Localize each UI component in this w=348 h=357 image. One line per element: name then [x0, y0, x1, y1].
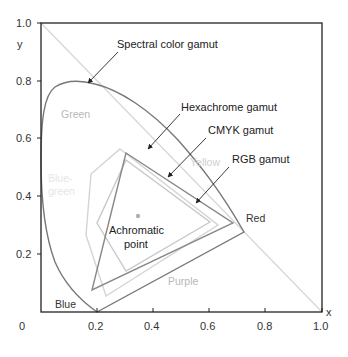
hexachrome-gamut-label: Hexachrome gamut: [181, 101, 277, 113]
achromatic-point-label: Achromatic: [109, 224, 165, 236]
x-axis-label: x: [326, 306, 332, 318]
spectral-arrow: [88, 52, 118, 83]
origin-label: 0: [19, 320, 25, 332]
y-tick-label: 0.8: [16, 75, 31, 87]
bluegreen-region-label: Blue-: [48, 172, 73, 184]
y-tick-label: 0.2: [16, 248, 31, 260]
x-tick-label: 0.8: [257, 320, 272, 332]
y-tick-label: 0.4: [16, 190, 31, 202]
x-tick-label: 0.2: [88, 320, 103, 332]
blue-region-label: Blue: [55, 298, 76, 310]
hexachrome-gamut-polygon: [86, 149, 218, 296]
hexachrome-arrow: [148, 114, 180, 149]
diagonal-line: [41, 23, 322, 312]
x-tick-label: 1.0: [313, 320, 328, 332]
rgb-gamut-polygon: [92, 153, 233, 290]
chromaticity-diagram: 0 0.2 0.4 0.6 0.8 1.0 0.2 0.4 0.6 0.8 1.…: [0, 0, 348, 357]
cmyk-gamut-label: CMYK gamut: [208, 124, 273, 136]
achromatic-point-dot: [136, 214, 140, 218]
green-region-label: Green: [61, 108, 90, 120]
purple-region-label: Purple: [168, 275, 199, 287]
rgb-gamut-label: RGB gamut: [232, 153, 289, 165]
cmyk-gamut-polygon: [97, 160, 210, 271]
y-axis-label: y: [17, 38, 23, 50]
achromatic-point-label-line2: point: [124, 238, 148, 250]
x-tick-label: 0.4: [144, 320, 159, 332]
y-tick-label: 1.0: [16, 17, 31, 29]
y-tick-label: 0.6: [16, 132, 31, 144]
yellow-region-label: Yellow: [190, 156, 220, 168]
bluegreen-region-label-line2: green: [48, 185, 75, 197]
x-tick-label: 0.6: [200, 320, 215, 332]
spectral-gamut-label: Spectral color gamut: [117, 38, 218, 50]
red-region-label: Red: [246, 212, 265, 224]
rgb-arrow: [196, 167, 229, 203]
